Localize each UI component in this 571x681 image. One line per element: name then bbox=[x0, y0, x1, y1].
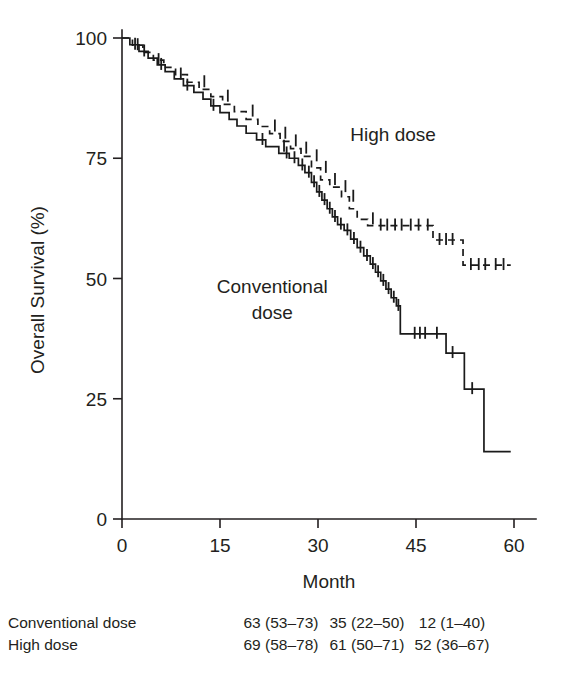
x-tick-label: 15 bbox=[209, 535, 230, 556]
risk-row-label: High dose bbox=[8, 636, 78, 653]
risk-cell: 69 (58–78) bbox=[244, 636, 319, 653]
y-tick-label: 75 bbox=[86, 148, 107, 169]
y-tick-label: 25 bbox=[86, 389, 107, 410]
x-tick-label: 60 bbox=[503, 535, 524, 556]
x-axis-ticks: 015304560 bbox=[117, 519, 525, 556]
y-tick-label: 0 bbox=[96, 509, 107, 530]
risk-cell: 12 (1–40) bbox=[419, 614, 485, 631]
x-tick-label: 30 bbox=[307, 535, 328, 556]
risk-cell: 61 (50–71) bbox=[330, 636, 405, 653]
y-tick-label: 50 bbox=[86, 269, 107, 290]
y-axis-ticks: 0255075100 bbox=[75, 28, 122, 530]
x-axis-label: Month bbox=[303, 571, 356, 592]
x-tick-label: 45 bbox=[405, 535, 426, 556]
censoring-marks bbox=[135, 38, 503, 394]
conventional-dose-label-line2: dose bbox=[252, 302, 293, 323]
high-dose-label: High dose bbox=[350, 124, 436, 145]
y-tick-label: 100 bbox=[75, 28, 107, 49]
risk-cell: 52 (36–67) bbox=[415, 636, 490, 653]
survival-curve-figure: Overall Survival (%) 0255075100 01530456… bbox=[0, 0, 571, 681]
x-tick-label: 0 bbox=[117, 535, 128, 556]
kaplan-meier-plot: Overall Survival (%) 0255075100 01530456… bbox=[0, 0, 571, 681]
risk-cell: 63 (53–73) bbox=[244, 614, 319, 631]
risk-row-label: Conventional dose bbox=[8, 614, 136, 631]
curve-annotations: High doseConventionaldose bbox=[217, 124, 436, 323]
risk-table: Conventional dose63 (53–73)35 (22–50)12 … bbox=[8, 614, 489, 653]
y-axis-label: Overall Survival (%) bbox=[27, 206, 48, 374]
risk-cell: 35 (22–50) bbox=[330, 614, 405, 631]
conventional-dose-label: Conventional bbox=[217, 276, 328, 297]
